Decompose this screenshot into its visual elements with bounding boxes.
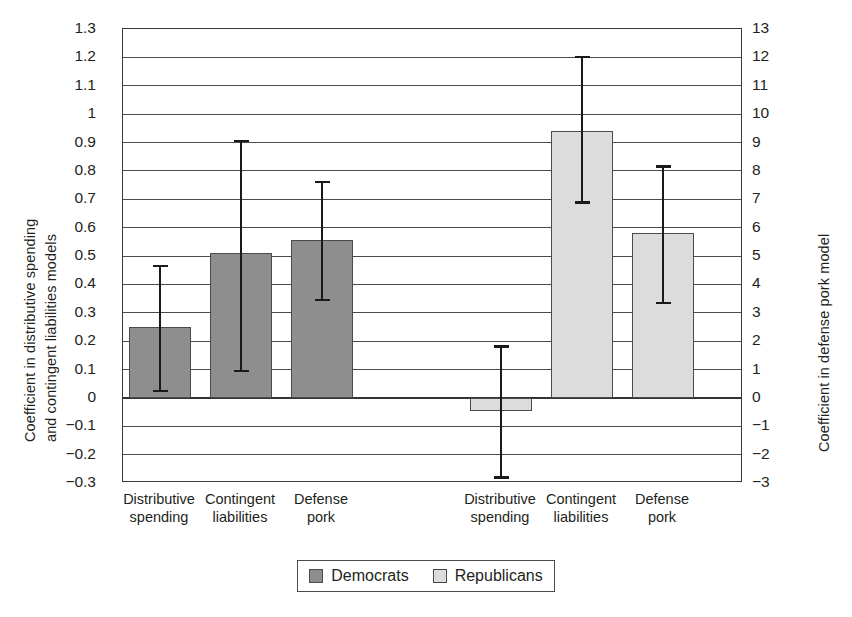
right-tick-label: 3 [752, 304, 761, 320]
left-tick-label: −0.2 [65, 446, 96, 462]
right-tick-label: 8 [752, 162, 761, 178]
error-bar [491, 345, 511, 478]
error-bar [150, 265, 170, 393]
gridline [123, 114, 741, 115]
error-bar-cap-upper [494, 345, 509, 347]
error-bar-cap-lower [153, 390, 168, 392]
error-bar-cap-lower [494, 476, 509, 478]
error-bar-stem [159, 265, 161, 393]
error-bar-stem [321, 181, 323, 302]
right-tick-label: 6 [752, 219, 761, 235]
category-label-line1: Defense [602, 490, 722, 508]
left-tick-label: −0.1 [65, 417, 96, 433]
error-bar-cap-lower [234, 370, 249, 372]
error-bar [231, 140, 251, 373]
gridline [123, 170, 741, 171]
right-tick-label: −2 [752, 446, 770, 462]
category-label-line2: pork [261, 508, 381, 526]
gridline [123, 426, 741, 427]
right-tick-label: 1 [752, 361, 761, 377]
error-bar [312, 181, 332, 302]
gridline [123, 142, 741, 143]
error-bar-cap-lower [656, 302, 671, 304]
error-bar-stem [240, 140, 242, 373]
left-axis-title-line2: and contingent liabilities models [43, 234, 59, 442]
category-label-line2: pork [602, 508, 722, 526]
legend-item-democrats: Democrats [309, 568, 408, 584]
error-bar-stem [500, 345, 502, 478]
legend-label-democrats: Democrats [331, 568, 408, 584]
right-tick-label: 7 [752, 190, 761, 206]
right-axis-title: Coefficient in defense pork model [816, 234, 832, 452]
left-tick-label: 0.5 [74, 247, 96, 263]
left-tick-label: 0.9 [74, 134, 96, 150]
right-tick-label: 10 [752, 105, 769, 121]
right-tick-label: 9 [752, 134, 761, 150]
category-label-line1: Defense [261, 490, 381, 508]
plot-area [122, 28, 742, 482]
left-axis-title-line1: Coefficient in distributive spending [22, 219, 38, 442]
error-bar-cap-upper [234, 140, 249, 142]
error-bar-cap-lower [315, 299, 330, 301]
left-tick-label: −0.3 [65, 474, 96, 490]
error-bar-cap-upper [575, 56, 590, 58]
legend-swatch-republicans [433, 569, 447, 583]
left-tick-label: 0.2 [74, 332, 96, 348]
gridline [123, 57, 741, 58]
left-tick-label: 0.8 [74, 162, 96, 178]
left-tick-label: 0.6 [74, 219, 96, 235]
left-tick-label: 0 [87, 389, 96, 405]
left-tick-label: 0.4 [74, 275, 96, 291]
error-bar-cap-lower [575, 201, 590, 203]
bar-chart-figure: Coefficient in distributive spending and… [0, 0, 852, 617]
left-tick-label: 1 [87, 105, 96, 121]
error-bar [653, 165, 673, 304]
category-label: Defensepork [261, 490, 381, 526]
right-tick-label: −1 [752, 417, 770, 433]
right-tick-label: 4 [752, 275, 761, 291]
legend: Democrats Republicans [297, 560, 555, 592]
gridline [123, 199, 741, 200]
left-tick-label: 1.3 [74, 20, 96, 36]
left-tick-label: 0.7 [74, 190, 96, 206]
legend-item-republicans: Republicans [433, 568, 543, 584]
left-tick-label: 1.2 [74, 48, 96, 64]
left-tick-label: 1.1 [74, 77, 96, 93]
error-bar-cap-upper [153, 265, 168, 267]
left-tick-label: 0.1 [74, 361, 96, 377]
category-label: Defensepork [602, 490, 722, 526]
error-bar [572, 56, 592, 204]
right-tick-label: 12 [752, 48, 769, 64]
gridline [123, 227, 741, 228]
right-tick-label: 5 [752, 247, 761, 263]
error-bar-stem [662, 165, 664, 304]
error-bar-stem [581, 56, 583, 204]
error-bar-cap-upper [656, 165, 671, 167]
gridline [123, 454, 741, 455]
right-tick-label: −3 [752, 474, 770, 490]
right-tick-label: 0 [752, 389, 761, 405]
error-bar-cap-upper [315, 181, 330, 183]
gridline [123, 85, 741, 86]
legend-label-republicans: Republicans [455, 568, 543, 584]
left-tick-label: 0.3 [74, 304, 96, 320]
legend-swatch-democrats [309, 569, 323, 583]
right-tick-label: 11 [752, 77, 768, 93]
right-tick-label: 13 [752, 20, 769, 36]
right-tick-label: 2 [752, 332, 761, 348]
